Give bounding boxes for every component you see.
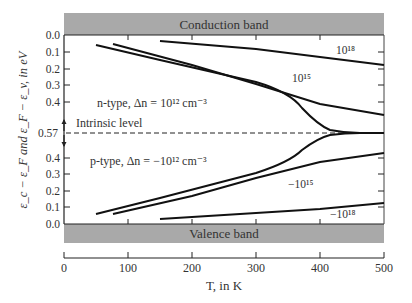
n15-label: 10¹⁵ — [292, 72, 311, 84]
ytick-lower-2: 0.2 — [46, 185, 61, 197]
p18-label: −10¹⁸ — [330, 208, 355, 220]
ytick-upper-2: 0.2 — [46, 63, 61, 75]
ytick-upper-4: 0.4 — [46, 96, 61, 108]
xtick-4: 400 — [311, 261, 329, 275]
ytick-lower-3: 0.1 — [46, 201, 61, 213]
xtick-5: 500 — [375, 261, 393, 275]
ytick-lower-4: 0.0 — [46, 218, 61, 230]
curve-p-1e12 — [96, 133, 384, 214]
ytick-intrinsic: 0.57 — [38, 127, 58, 139]
n18-label: 10¹⁸ — [336, 44, 355, 56]
p-type-label: p-type, Δn = −10¹² cm⁻³ — [90, 154, 207, 168]
ytick-upper-3: 0.3 — [46, 79, 61, 91]
n-type-label: n-type, Δn = 10¹² cm⁻³ — [97, 96, 207, 110]
xtick-2: 200 — [183, 261, 201, 275]
xtick-0: 0 — [61, 261, 67, 275]
xtick-3: 300 — [247, 261, 265, 275]
valence-band-label: Valence band — [189, 226, 259, 241]
xtick-1: 100 — [119, 261, 137, 275]
fermi-level-chart: Conduction band Valence band 0.0 0.1 0.2… — [0, 0, 412, 303]
y-axis-label: ε_c − ε_F and ε_F − ε_v, in eV — [16, 50, 30, 208]
ytick-upper-1: 0.1 — [46, 46, 61, 58]
ytick-upper-0: 0.0 — [46, 29, 61, 41]
ytick-lower-1: 0.3 — [46, 168, 61, 180]
ytick-lower-0: 0.4 — [46, 152, 61, 164]
p15-label: −10¹⁵ — [288, 178, 313, 190]
conduction-band-label: Conduction band — [179, 17, 269, 32]
intrinsic-level-label: Intrinsic level — [76, 116, 143, 130]
x-axis-label: T, in K — [206, 278, 243, 293]
